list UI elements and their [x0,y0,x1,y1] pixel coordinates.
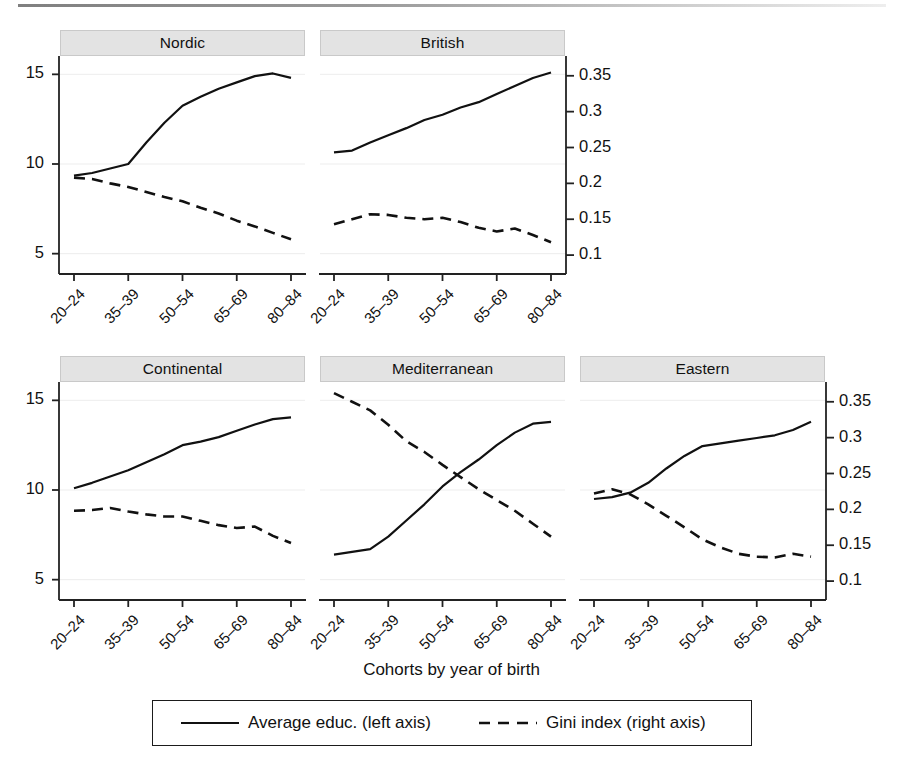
right-axis-tick-label: 0.25 [839,463,893,482]
x-tick-label: 20–24 [563,611,608,656]
x-tick-label: 80–84 [520,611,565,656]
left-axis-tick-label: 15 [0,389,44,408]
scan-edge-artifact [18,4,886,7]
series-gini-nordic [74,178,291,240]
x-tick-label: 80–84 [260,285,305,330]
x-tick-label: 50–54 [152,285,197,330]
plot-area-british [320,60,565,268]
right-axis-tick-label: 0.3 [579,101,633,120]
plot-canvas-nordic [60,60,305,282]
x-tick-label: 65–69 [206,611,251,656]
legend-item-average-educ: Average educ. (left axis) [181,701,431,745]
plot-area-nordic [60,60,305,268]
plot-canvas-continental [60,386,305,608]
x-tick-label: 20–24 [43,285,88,330]
panel-title-continental: Continental [60,356,305,382]
right-axis-tick-label: 0.35 [579,65,633,84]
right-axis-tick-label: 0.2 [579,172,633,191]
x-axis-title: Cohorts by year of birth [0,660,903,680]
panel-title-mediterranean: Mediterranean [320,356,565,382]
right-axis-tick-label: 0.2 [839,498,893,517]
series-avg-educ-mediterranean [334,422,551,555]
series-gini-mediterranean [334,393,551,536]
figure-root: Nordic20–2435–3950–5465–6980–8415105Brit… [0,0,903,766]
series-avg-educ-eastern [594,422,811,499]
x-tick-label: 80–84 [260,611,305,656]
x-tick-label: 65–69 [466,611,511,656]
left-axis-tick-label: 10 [0,153,44,172]
legend-label: Gini index (right axis) [546,713,706,733]
plot-canvas-mediterranean [320,386,565,608]
x-tick-label: 35–39 [98,285,143,330]
x-tick-label: 50–54 [152,611,197,656]
left-axis-tick-label: 10 [0,479,44,498]
series-avg-educ-continental [74,417,291,488]
series-avg-educ-nordic [74,73,291,175]
legend-solid-line-icon [181,717,239,729]
right-axis-tick-label: 0.35 [839,391,893,410]
plot-area-continental [60,386,305,594]
x-tick-label: 50–54 [672,611,717,656]
x-tick-label: 20–24 [43,611,88,656]
x-tick-label: 35–39 [98,611,143,656]
right-axis-tick-label: 0.25 [579,137,633,156]
x-tick-label: 65–69 [466,285,511,330]
legend: Average educ. (left axis)Gini index (rig… [152,700,752,746]
plot-canvas-british [320,60,565,282]
x-tick-label: 35–39 [358,285,403,330]
left-axis-tick-label: 15 [0,63,44,82]
right-axis-tick-label: 0.1 [579,244,633,263]
x-tick-label: 20–24 [303,285,348,330]
x-tick-label: 20–24 [303,611,348,656]
right-axis-tick-label: 0.1 [839,570,893,589]
x-tick-label: 35–39 [618,611,663,656]
x-tick-label: 80–84 [780,611,825,656]
x-tick-label: 35–39 [358,611,403,656]
legend-item-gini-index: Gini index (right axis) [479,701,706,745]
right-axis-tick-label: 0.3 [839,427,893,446]
legend-dashed-line-icon [479,717,537,729]
panel-title-british: British [320,30,565,56]
plot-area-mediterranean [320,386,565,594]
x-tick-label: 65–69 [726,611,771,656]
x-tick-label: 65–69 [206,285,251,330]
right-axis-tick-label: 0.15 [839,534,893,553]
series-avg-educ-british [334,73,551,153]
left-axis-tick-label: 5 [0,569,44,588]
series-gini-continental [74,508,291,543]
right-axis-tick-label: 0.15 [579,208,633,227]
x-tick-label: 80–84 [520,285,565,330]
legend-label: Average educ. (left axis) [248,713,431,733]
series-gini-eastern [594,489,811,557]
left-axis-tick-label: 5 [0,243,44,262]
panel-title-eastern: Eastern [580,356,825,382]
plot-canvas-eastern [580,386,825,608]
x-tick-label: 50–54 [412,285,457,330]
panel-title-nordic: Nordic [60,30,305,56]
series-gini-british [334,214,551,242]
plot-area-eastern [580,386,825,594]
x-tick-label: 50–54 [412,611,457,656]
